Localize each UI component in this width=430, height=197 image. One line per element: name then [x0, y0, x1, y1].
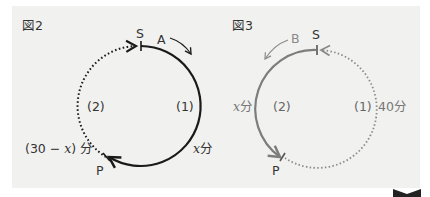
fig3-arc-1-time: 40分: [378, 99, 407, 114]
figure-3: 図3 S P B (2) (1) x分 40分: [232, 18, 407, 178]
figure-3-title: 図3: [232, 18, 253, 33]
figure-2: 図2 S P A (2) (1) x分 (30 − x) 分: [22, 18, 213, 178]
fig2-arc-2-label: (2): [87, 99, 105, 114]
fig2-point-tick: [103, 153, 110, 161]
fig2-arc-2-time: (30 − x) 分: [25, 141, 93, 156]
fig3-start-label: S: [312, 27, 320, 42]
fig3-direction-arrow: [265, 40, 288, 59]
fig2-runner-label: A: [157, 32, 166, 47]
fig3-arc-1-label: (1): [354, 99, 372, 114]
fig2-point-label: P: [96, 163, 104, 178]
fig3-arc-2-label: (2): [273, 99, 291, 114]
figure-2-title: 図2: [22, 18, 43, 33]
fig2-arc-1-label: (1): [176, 99, 194, 114]
fig3-arc-2-time: x分: [233, 99, 253, 114]
fig3-runner-label: B: [291, 31, 300, 46]
diagram-canvas: 図2 S P A (2) (1) x分 (30 − x) 分 図3 S P B …: [0, 0, 430, 197]
fig3-point-label: P: [272, 163, 280, 178]
corner-decoration: [393, 189, 421, 197]
fig2-start-label: S: [136, 26, 144, 41]
fig2-direction-arrow: [170, 38, 191, 54]
fig2-arc-1-time: x分: [193, 141, 213, 156]
fig3-point-tick: [280, 153, 285, 161]
